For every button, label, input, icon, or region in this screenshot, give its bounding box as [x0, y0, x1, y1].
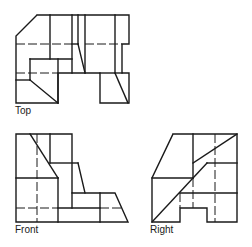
front-edge — [78, 163, 85, 193]
top-edge — [30, 80, 58, 103]
right-view-label: Right — [150, 225, 173, 235]
top-edge — [115, 73, 128, 103]
right-view — [152, 134, 237, 222]
front-view — [16, 134, 128, 222]
front-edge — [30, 134, 58, 178]
top-view — [16, 15, 129, 103]
orthographic-drawing — [0, 0, 252, 247]
top-edge — [78, 44, 85, 73]
front-view-label: Front — [15, 225, 38, 235]
top-view-label: Top — [15, 106, 31, 116]
